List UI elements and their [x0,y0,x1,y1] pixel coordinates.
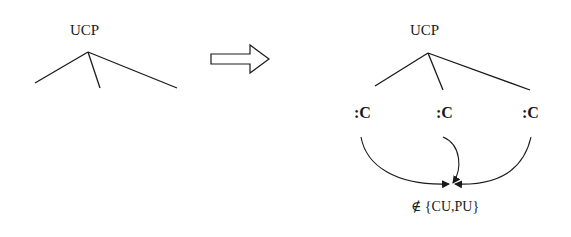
left-tree-branches [35,52,177,88]
constraint-label: ∉ {CU,PU} [411,200,479,214]
arc-from-left-c [361,137,449,184]
left-tree-branch-right [88,52,177,88]
right-tree-child-left: :C [354,105,371,121]
dependency-arcs [361,137,531,184]
right-tree-branch-middle [428,53,443,90]
right-tree-child-middle: :C [436,105,453,121]
right-tree-branch-right [428,53,530,90]
right-block-arrow-icon [211,45,269,73]
arc-from-right-c [455,137,531,184]
left-tree-branch-left [35,52,88,83]
right-tree-branches [375,53,530,90]
diagram-canvas: UCP UCP :C :C :C ∉ {CU,PU} [0,0,571,237]
left-tree-branch-middle [88,52,100,88]
right-tree-branch-left [375,53,428,86]
left-tree-root-label: UCP [70,23,99,38]
right-tree-child-right: :C [522,105,539,121]
arc-from-middle-c [443,137,459,183]
right-tree-root-label: UCP [410,23,439,38]
